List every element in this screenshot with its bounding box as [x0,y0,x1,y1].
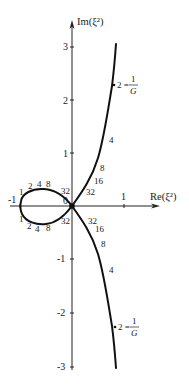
lower-branch-label-4: 4 [109,265,114,275]
x-tick-neg1: -1 [8,194,16,205]
loop-upper-label-1: 1 [19,187,24,197]
loop-lower-label-1: 1 [19,214,24,224]
y-tick-3: 3 [63,41,68,52]
loop-upper-label-32: 32 [61,186,70,196]
upper-branch-label-8: 8 [100,163,105,173]
upper-branch-label-32: 32 [86,187,95,197]
x-axis-label: Re(ξ²) [150,191,177,203]
loop-lower-label-8: 8 [46,223,51,233]
upper-branch-label-4: 4 [109,135,114,145]
y-axis-label: Im(ξ²) [77,16,104,28]
complex-plane-diagram: Im(ξ²) Re(ξ²) 3 2 1 -1 -2 -3 -1 1 0 1 2 … [0,0,189,391]
origin-point [69,203,75,209]
x-tick-1: 1 [121,191,126,202]
annotation-lower: 2 = 1 G [114,316,139,338]
y-tick-neg2: -2 [57,307,65,318]
svg-text:2 =: 2 = [117,80,129,90]
svg-text:1: 1 [132,316,137,326]
loop-upper-label-8: 8 [46,179,51,189]
lower-branch-curve [72,206,116,368]
svg-text:G: G [131,328,138,338]
loop-lower-label-2: 2 [27,221,32,231]
svg-text:G: G [130,86,137,96]
upper-branch-label-16: 16 [94,176,104,186]
y-tick-neg1: -1 [57,253,65,264]
annotation-upper: 2 = 1 G [113,74,138,96]
loop-lower-label-4: 4 [35,224,40,234]
y-tick-neg3: -3 [57,361,65,372]
loop-lower-label-32: 32 [61,216,70,226]
lower-branch-label-8: 8 [101,239,106,249]
loop-upper-label-2: 2 [28,181,33,191]
svg-text:1: 1 [131,74,136,84]
lower-branch-label-16: 16 [95,224,105,234]
loop-upper-label-4: 4 [37,179,42,189]
svg-text:2 =: 2 = [118,322,130,332]
y-tick-2: 2 [63,95,68,106]
y-tick-1: 1 [63,148,68,159]
